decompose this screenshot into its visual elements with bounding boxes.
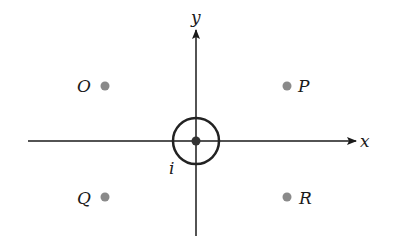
point-Q: Q (77, 188, 110, 208)
point-label: Q (77, 188, 91, 208)
diagram-canvas: x y i O P Q R (0, 0, 395, 236)
point-label: P (297, 76, 310, 96)
point-dot (101, 82, 110, 91)
point-dot (283, 193, 292, 202)
point-dot (283, 82, 292, 91)
point-label: O (77, 76, 91, 96)
point-O: O (77, 76, 110, 96)
wire-dot (192, 137, 201, 146)
point-label: R (298, 188, 312, 208)
current-label: i (169, 158, 174, 178)
point-dot (101, 193, 110, 202)
y-axis-label: y (190, 7, 201, 27)
point-R: R (283, 188, 313, 208)
x-axis-label: x (360, 131, 370, 151)
point-P: P (283, 76, 311, 96)
